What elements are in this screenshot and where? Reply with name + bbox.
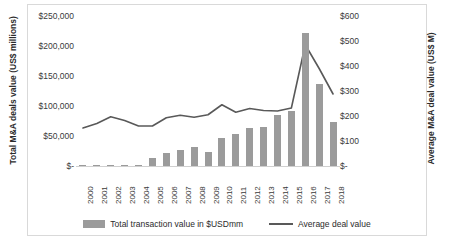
x-axis-label-2012: 2012 [253, 168, 262, 204]
x-axis-label-2006: 2006 [170, 168, 179, 204]
y-axis-right-tick: $600 [340, 11, 359, 21]
x-axis-label-2001: 2001 [100, 168, 109, 204]
bar-2013 [260, 127, 267, 166]
y-axis-right-tick: $100 [340, 136, 359, 146]
bar-2000 [79, 165, 86, 166]
bar-2018 [330, 122, 337, 166]
y-axis-right-tick: $500 [340, 36, 359, 46]
bar-2011 [232, 134, 239, 166]
chart-container: Total M&A deals value (US$ millions) Ave… [0, 0, 454, 241]
x-axis-label-2000: 2000 [86, 168, 95, 204]
legend-bars-label: Total transaction value in $USDmm [110, 219, 243, 229]
x-axis-label-2002: 2002 [114, 168, 123, 204]
x-axis-label-2003: 2003 [128, 168, 137, 204]
x-axis-label-2013: 2013 [267, 168, 276, 204]
plot-area [76, 16, 340, 166]
bar-2017 [316, 84, 323, 166]
x-axis-label-2008: 2008 [198, 168, 207, 204]
average-deal-value-line [76, 16, 340, 166]
y-axis-left-tick: $150,000 [39, 71, 74, 81]
x-axis-label-2009: 2009 [212, 168, 221, 204]
x-axis-label-2005: 2005 [156, 168, 165, 204]
y-axis-right-tick: $200 [340, 111, 359, 121]
x-axis-label-2011: 2011 [239, 168, 248, 204]
bar-2014 [274, 115, 281, 166]
legend-line-swatch-icon [269, 223, 293, 225]
chart-legend: Total transaction value in $USDmm Averag… [27, 212, 427, 236]
bar-2016 [302, 33, 309, 166]
bar-2005 [149, 158, 156, 166]
y-axis-right-title: Average M&A deal value (US$ M) [427, 34, 436, 164]
bar-2012 [246, 128, 253, 166]
bar-2008 [191, 147, 198, 166]
legend-bar-swatch-icon [83, 220, 105, 228]
legend-item-bars: Total transaction value in $USDmm [83, 219, 243, 229]
bar-2009 [205, 152, 212, 166]
x-axis-label-2017: 2017 [323, 168, 332, 204]
x-axis-label-2004: 2004 [142, 168, 151, 204]
x-axis-baseline [76, 166, 340, 167]
bar-2015 [288, 111, 295, 166]
bar-2007 [177, 150, 184, 166]
x-axis-label-2015: 2015 [295, 168, 304, 204]
y-axis-right-tick: $400 [340, 61, 359, 71]
legend-line-label: Average deal value [298, 219, 371, 229]
bar-2003 [121, 165, 128, 166]
y-axis-left-tick: $50,000 [43, 131, 74, 141]
x-axis-labels: 2000200120022003200420052006200720082009… [76, 168, 340, 210]
bar-2010 [218, 138, 225, 166]
x-axis-label-2010: 2010 [225, 168, 234, 204]
bar-2002 [107, 165, 114, 166]
y-axis-left-tick: $200,000 [39, 41, 74, 51]
x-axis-label-2018: 2018 [337, 168, 346, 204]
x-axis-label-2016: 2016 [309, 168, 318, 204]
y-axis-left-tick: $- [66, 161, 74, 171]
y-axis-right-ticks: $600$500$400$300$200$100$- [340, 0, 380, 241]
x-axis-label-2014: 2014 [281, 168, 290, 204]
y-axis-left-tick: $250,000 [39, 11, 74, 21]
y-axis-left-tick: $100,000 [39, 101, 74, 111]
y-axis-right-tick: $300 [340, 86, 359, 96]
legend-item-line: Average deal value [269, 219, 371, 229]
bar-2004 [135, 165, 142, 166]
x-axis-label-2007: 2007 [184, 168, 193, 204]
bar-2001 [93, 165, 100, 166]
bar-2006 [163, 153, 170, 166]
y-axis-left-ticks: $250,000$200,000$150,000$100,000$50,000$… [12, 0, 74, 241]
